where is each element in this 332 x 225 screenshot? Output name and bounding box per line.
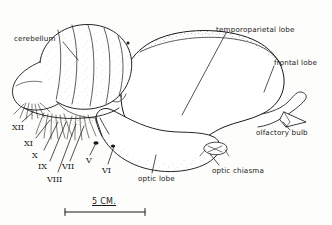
brain-outline-group xyxy=(12,24,306,215)
scale-bar-label: 5 CM. xyxy=(92,197,116,206)
anatomical-figure: cerebellum temporoparietal lobe frontal … xyxy=(0,0,332,225)
label-frontal-lobe: frontal lobe xyxy=(274,59,317,66)
cranial-nerve-label-xi: XI xyxy=(24,140,33,148)
label-cerebellum: cerebellum xyxy=(14,35,56,42)
cranial-nerve-label-x: X xyxy=(32,152,38,160)
leader-xii xyxy=(22,112,33,122)
cranial-nerve-label-vii: VII xyxy=(62,163,74,171)
label-optic-lobe: optic lobe xyxy=(138,175,175,182)
leader-xi xyxy=(36,120,50,138)
cranial-nerve-label-ix: IX xyxy=(38,163,47,171)
leader-v xyxy=(90,143,96,155)
olfactory-bulb-shape xyxy=(280,112,306,127)
cranial-nerve-label-viii: VIII xyxy=(47,176,62,184)
label-temporoparietal-lobe: temporoparietal lobe xyxy=(216,26,295,33)
label-olfactory-bulb: olfactory bulb xyxy=(256,129,308,136)
cranial-nerve-label-vi: VI xyxy=(102,167,111,175)
cranial-nerve-label-v: V xyxy=(86,157,92,165)
label-optic-chiasma: optic chiasma xyxy=(212,167,264,174)
scale-bar-graphic xyxy=(65,209,145,216)
cranial-nerve-label-xii: XII xyxy=(12,124,24,132)
leader-ix xyxy=(50,122,66,161)
leader-vii xyxy=(70,126,84,161)
